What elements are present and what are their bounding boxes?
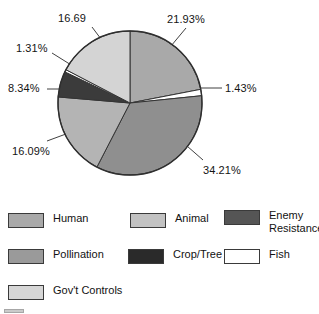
legend-label-human: Human — [53, 212, 88, 225]
legend-label-gov-controls: Gov't Controls — [53, 284, 122, 297]
legend-swatch-pollination — [8, 249, 44, 264]
legend-label-animal: Animal — [175, 212, 209, 225]
legend-swatch-gov-controls — [8, 285, 44, 300]
pie-label-human: 21.93% — [167, 13, 205, 25]
pie-label-animal: 16.09% — [12, 145, 50, 157]
legend-item-crop-tree[interactable]: Crop/Tree — [128, 248, 222, 264]
legend-item-human[interactable]: Human — [8, 212, 88, 228]
pie-chart-figure: 16.69 21.93% 1.31% 8.34% 16.09% 1.43% 34… — [0, 0, 319, 314]
chart-legend: Human Animal Enemy Resistance Pollinatio… — [0, 198, 319, 314]
legend-item-enemy-resistance[interactable]: Enemy Resistance — [224, 209, 319, 234]
legend-label-crop-tree: Crop/Tree — [173, 248, 222, 261]
leader-line-human — [171, 28, 186, 46]
pie-label-enemy-resistance: 1.31% — [16, 42, 48, 54]
pie-plot-area: 16.69 21.93% 1.31% 8.34% 16.09% 1.43% 34… — [0, 0, 319, 198]
pie-svg — [0, 0, 319, 198]
legend-label-fish: Fish — [269, 248, 290, 261]
pie-label-crop-tree: 8.34% — [8, 82, 40, 94]
legend-swatch-enemy-resistance — [224, 210, 260, 225]
legend-swatch-animal — [130, 213, 166, 228]
legend-label-enemy-resistance: Enemy Resistance — [269, 209, 319, 234]
pie-label-fish: 1.43% — [225, 82, 257, 94]
legend-swatch-fish — [224, 249, 260, 264]
legend-item-fish[interactable]: Fish — [224, 248, 290, 264]
legend-swatch-human — [8, 213, 44, 228]
scan-artifact — [4, 309, 24, 313]
legend-item-gov-controls[interactable]: Gov't Controls — [8, 284, 122, 300]
legend-item-animal[interactable]: Animal — [130, 212, 209, 228]
pie-label-gov-controls: 16.69 — [58, 12, 86, 24]
legend-label-pollination: Pollination — [53, 248, 104, 261]
legend-swatch-crop-tree — [128, 249, 164, 264]
legend-item-pollination[interactable]: Pollination — [8, 248, 104, 264]
pie-label-pollination: 34.21% — [203, 164, 241, 176]
leader-line-pollination — [187, 146, 203, 160]
